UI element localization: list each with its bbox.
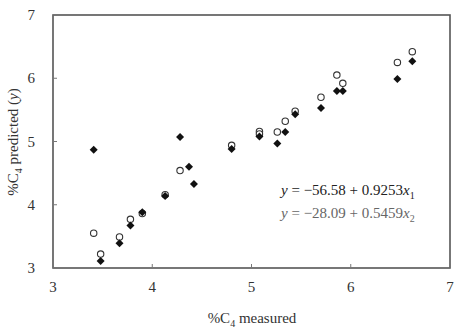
- x-tick-label: 5: [248, 279, 256, 295]
- data-point-circle: [97, 251, 103, 257]
- data-point-diamond: [317, 104, 325, 112]
- data-point-diamond: [273, 139, 281, 147]
- data-point-diamond: [190, 180, 198, 188]
- data-point-diamond: [90, 146, 98, 154]
- plot-border: [53, 15, 450, 268]
- regression-equations: y = −56.58 + 0.9253x1 y = −28.09 + 0.545…: [279, 182, 415, 224]
- y-tick-label: 5: [28, 134, 36, 150]
- y-tick-label: 3: [28, 260, 36, 276]
- data-point-diamond: [339, 87, 347, 95]
- data-point-circle: [274, 129, 280, 135]
- data-point-circle: [334, 72, 340, 78]
- data-point-circle: [340, 80, 346, 86]
- data-point-circle: [116, 234, 122, 240]
- y-tick-label: 4: [28, 197, 36, 213]
- data-point-diamond: [176, 133, 184, 141]
- data-point-circle: [127, 216, 133, 222]
- x-axis-title: %C4 measured: [208, 310, 297, 329]
- data-point-diamond: [97, 257, 105, 265]
- data-point-diamond: [281, 128, 289, 136]
- data-point-diamond: [115, 239, 123, 247]
- data-point-diamond: [408, 57, 416, 65]
- y-axis-title: %C4 predicted (y): [5, 88, 24, 195]
- x-tick-label: 3: [49, 279, 57, 295]
- data-point-circle: [394, 59, 400, 65]
- data-point-circle: [282, 118, 288, 124]
- equation-1: y = −56.58 + 0.9253x1: [279, 182, 415, 201]
- y-tick-label: 7: [28, 7, 36, 23]
- series-x2-circles: [90, 48, 415, 257]
- data-point-circle: [177, 167, 183, 173]
- data-point-circle: [90, 230, 96, 236]
- series-x1-diamonds: [90, 57, 417, 265]
- data-point-diamond: [185, 163, 193, 171]
- data-point-circle: [409, 48, 415, 54]
- y-tick-label: 6: [28, 70, 36, 86]
- data-point-diamond: [393, 75, 401, 83]
- scatter-chart: 3456734567 y = −56.58 + 0.9253x1 y = −28…: [0, 0, 466, 331]
- x-tick-label: 4: [149, 279, 157, 295]
- data-point-circle: [318, 94, 324, 100]
- x-tick-label: 7: [446, 279, 454, 295]
- equation-2: y = −28.09 + 0.5459x2: [279, 205, 415, 224]
- x-tick-label: 6: [347, 279, 355, 295]
- axis-ticks: [53, 15, 450, 268]
- plot-frame: [53, 15, 450, 268]
- data-point-diamond: [126, 222, 134, 230]
